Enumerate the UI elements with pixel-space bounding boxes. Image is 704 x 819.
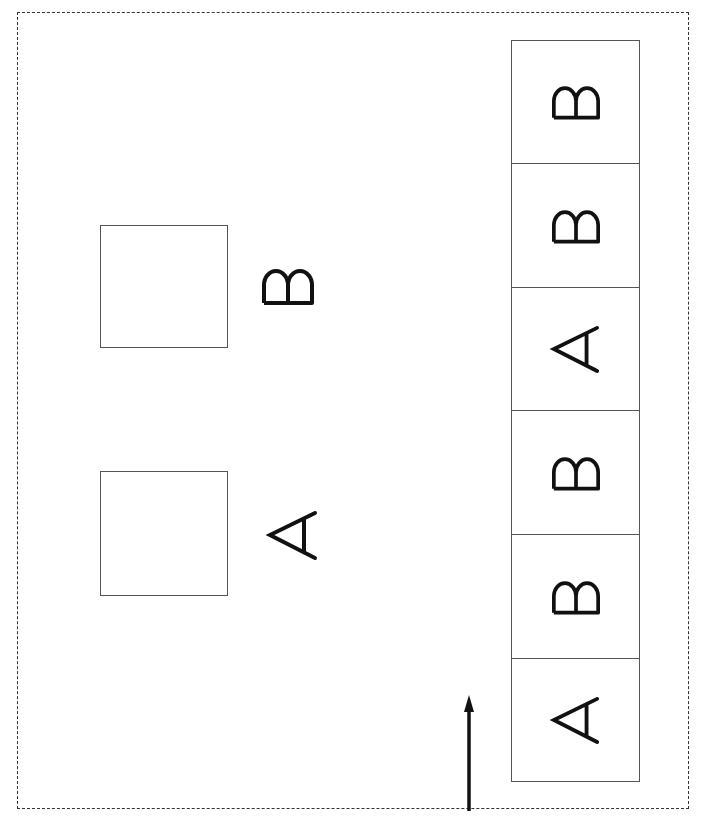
- reference-label-a: [268, 510, 318, 564]
- stack-cell-6: [511, 658, 640, 782]
- letter-a-rotated-icon: [552, 325, 600, 373]
- letter-b-rotated-icon: [552, 577, 600, 617]
- letter-b-rotated-icon: [552, 453, 600, 493]
- stack-cell-4: [511, 410, 640, 535]
- letter-b-rotated-icon: [552, 82, 600, 122]
- direction-arrow: [461, 695, 477, 815]
- reference-box-a: [100, 471, 228, 596]
- reference-label-b: [262, 265, 314, 311]
- reference-box-b: [100, 225, 228, 348]
- letter-a-rotated-icon: [268, 510, 318, 560]
- stack-cell-3: [511, 287, 640, 411]
- stack-cell-1: [511, 40, 640, 164]
- stack-cell-5: [511, 534, 640, 659]
- stack-cell-2: [511, 163, 640, 288]
- letter-a-rotated-icon: [552, 696, 600, 744]
- arrow-up-icon: [461, 695, 477, 811]
- letter-b-rotated-icon: [262, 265, 314, 307]
- letter-b-rotated-icon: [552, 206, 600, 246]
